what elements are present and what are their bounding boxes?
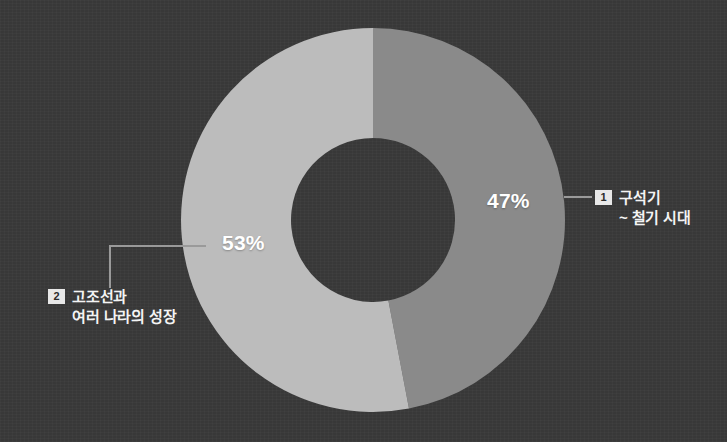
callout-2-line-1: 고조선과 [72,287,127,307]
callout-2-row-1: 2 고조선과 [48,287,177,307]
callout-label-1[interactable]: 1 구석기 ~ 철기 시대 [595,188,691,228]
callout-2-line-2: 여러 나라의 성장 [48,307,177,327]
callout-1-line-1: 구석기 [619,188,660,208]
callout-1-badge: 1 [595,190,612,205]
callout-1-line-2: ~ 철기 시대 [595,208,691,228]
donut-slice-1[interactable] [373,28,565,409]
slice-2-percent-label: 53% [222,231,265,255]
chart-canvas: 미리보기 47% 53% 1 구석기 ~ 철기 시대 2 고조선과 여러 나라의… [0,0,727,442]
slice-1-percent-label: 47% [487,189,530,213]
callout-label-2[interactable]: 2 고조선과 여러 나라의 성장 [48,287,177,327]
callout-2-badge: 2 [48,289,65,304]
callout-1-row-1: 1 구석기 [595,188,691,208]
